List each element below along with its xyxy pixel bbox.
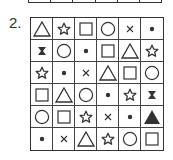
grid-cell: [75, 106, 97, 128]
grid-cell: [75, 40, 97, 62]
circle-icon: [34, 109, 50, 125]
grid-cell: [53, 62, 75, 84]
square-icon: [79, 22, 93, 36]
grid-cell: [97, 18, 119, 40]
previous-grid-bottom-edge: [28, 0, 162, 3]
grid-cell: [97, 106, 119, 128]
grid-cell: [97, 40, 119, 62]
square-icon: [57, 110, 71, 124]
grid-cell: [31, 62, 53, 84]
grid-cell: [31, 40, 53, 62]
grid-cell: [119, 40, 141, 62]
grid-cell: [119, 128, 141, 150]
square-icon: [35, 88, 49, 102]
grid-cell: [75, 62, 97, 84]
grid-cell: [141, 128, 163, 150]
dot-icon: [61, 70, 67, 76]
circle-icon: [100, 21, 116, 37]
star-icon: [35, 66, 49, 80]
grid-cell: [119, 106, 141, 128]
filled-triangle-icon: [143, 109, 161, 125]
grid-cell: [31, 106, 53, 128]
grid-cell: [31, 128, 53, 150]
dot-icon: [149, 26, 155, 32]
triangle-icon: [33, 21, 51, 37]
grid-cell: [53, 84, 75, 106]
grid-cell: [141, 40, 163, 62]
grid-cell: [141, 84, 163, 106]
x-icon: [81, 68, 91, 78]
circle-icon: [144, 65, 160, 81]
grid-cell: [119, 18, 141, 40]
star-icon: [57, 22, 71, 36]
triangle-icon: [121, 43, 139, 59]
x-icon: [59, 134, 69, 144]
grid-cell: [31, 18, 53, 40]
puzzle-number: 2.: [9, 14, 22, 31]
grid-cell: [75, 84, 97, 106]
dot-icon: [127, 114, 133, 120]
dot-icon: [105, 92, 111, 98]
bowtie-x-icon: [147, 90, 157, 100]
x-icon: [125, 24, 135, 34]
grid-cell: [97, 84, 119, 106]
triangle-icon: [77, 131, 95, 147]
grid-cell: [141, 18, 163, 40]
star-icon: [123, 88, 137, 102]
grid-cell: [31, 84, 53, 106]
grid-cell: [75, 128, 97, 150]
grid-cell: [53, 40, 75, 62]
square-icon: [123, 66, 137, 80]
grid-cell: [119, 62, 141, 84]
circle-icon: [122, 131, 138, 147]
star-icon: [101, 132, 115, 146]
circle-icon: [56, 43, 72, 59]
grid-cell: [141, 62, 163, 84]
symbol-grid: [30, 17, 164, 151]
triangle-icon: [99, 65, 117, 81]
grid-cell: [119, 84, 141, 106]
grid-cell: [97, 62, 119, 84]
dot-icon: [39, 136, 45, 142]
star-icon: [79, 110, 93, 124]
grid-cell: [53, 128, 75, 150]
star-icon: [145, 44, 159, 58]
grid-cell: [75, 18, 97, 40]
square-icon: [145, 132, 159, 146]
grid-cell: [141, 106, 163, 128]
grid-cell: [97, 128, 119, 150]
triangle-icon: [55, 87, 73, 103]
grid-cell: [53, 18, 75, 40]
dot-icon: [83, 48, 89, 54]
circle-icon: [78, 87, 94, 103]
bowtie-x-icon: [37, 46, 47, 56]
x-icon: [103, 112, 113, 122]
square-icon: [101, 44, 115, 58]
grid-cell: [53, 106, 75, 128]
